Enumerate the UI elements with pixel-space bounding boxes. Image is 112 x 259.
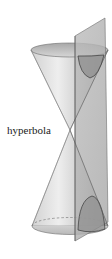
hyperbola-label: hyperbola [7,125,51,136]
